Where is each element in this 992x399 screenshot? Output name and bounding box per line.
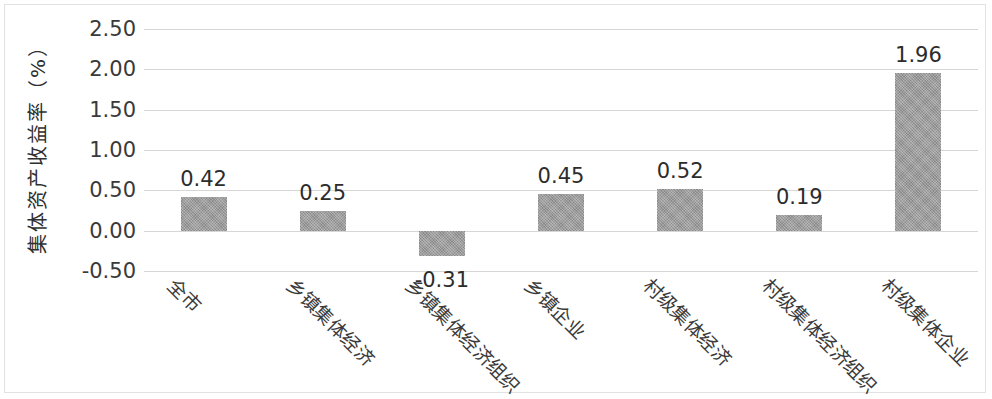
bar-value-label: 0.45 bbox=[538, 164, 585, 188]
bar bbox=[181, 197, 227, 231]
y-axis-tick: 0.50 bbox=[58, 178, 136, 202]
bar bbox=[657, 189, 703, 231]
y-axis-tick: 2.00 bbox=[58, 57, 136, 81]
bar bbox=[895, 73, 941, 231]
y-axis-title: 集体资产收益率（%） bbox=[22, 5, 51, 285]
x-axis-label: 村级集体经济组织 bbox=[758, 271, 885, 398]
x-axis-label: 村级集体企业 bbox=[877, 271, 977, 371]
bar-value-label: 0.42 bbox=[180, 167, 227, 191]
bar bbox=[300, 211, 346, 231]
plot-area: 0.420.25-0.310.450.520.191.96 bbox=[144, 29, 978, 271]
bar-group: 1.96 bbox=[859, 29, 978, 271]
bar-value-label: 0.52 bbox=[657, 159, 704, 183]
x-axis-label: 村级集体经济 bbox=[639, 271, 739, 371]
bar-group: 0.52 bbox=[621, 29, 740, 271]
x-axis-label: 全市 bbox=[162, 271, 208, 317]
bar bbox=[538, 194, 584, 230]
bar-group: 0.45 bbox=[501, 29, 620, 271]
bar-group: 0.42 bbox=[144, 29, 263, 271]
bar bbox=[419, 231, 465, 256]
bar-group: 0.25 bbox=[263, 29, 382, 271]
bar-group: 0.19 bbox=[740, 29, 859, 271]
bar-value-label: 0.19 bbox=[776, 185, 823, 209]
x-axis-label: 乡镇集体经济组织 bbox=[401, 271, 528, 398]
y-axis-tick: 0.00 bbox=[58, 219, 136, 243]
bar-series: 0.420.25-0.310.450.520.191.96 bbox=[144, 29, 978, 271]
bar-value-label: 0.25 bbox=[299, 181, 346, 205]
chart-figure: 集体资产收益率（%） 2.502.001.501.000.500.00-0.50… bbox=[0, 0, 992, 399]
x-axis-label: 乡镇集体经济 bbox=[282, 271, 382, 371]
bar-value-label: 1.96 bbox=[895, 43, 942, 67]
y-axis-tick-labels: 2.502.001.501.000.500.00-0.50 bbox=[58, 0, 136, 399]
bar-group: -0.31 bbox=[382, 29, 501, 271]
x-axis-category-labels: 全市乡镇集体经济乡镇集体经济组织乡镇企业村级集体经济村级集体经济组织村级集体企业 bbox=[144, 271, 978, 399]
y-axis-tick: 1.50 bbox=[58, 98, 136, 122]
y-axis-tick: 1.00 bbox=[58, 138, 136, 162]
bar bbox=[776, 215, 822, 230]
y-axis-tick: 2.50 bbox=[58, 17, 136, 41]
x-axis-label: 乡镇企业 bbox=[520, 271, 593, 344]
y-axis-tick: -0.50 bbox=[58, 259, 136, 283]
